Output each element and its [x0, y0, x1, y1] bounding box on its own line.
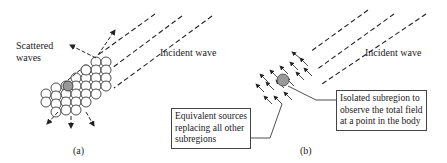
scattered-waves-label-line2: waves	[16, 52, 53, 64]
scattered-waves-label-line1: Scattered	[16, 40, 53, 52]
isolated-box-line3: at a point in the body	[340, 116, 423, 128]
equivalent-sources-box: Equivalent sources replacing all other s…	[171, 108, 251, 149]
equivalent-box-line3: subregions	[175, 134, 247, 146]
equivalent-box-line1: Equivalent sources	[175, 111, 247, 123]
caption-b: (b)	[300, 145, 312, 157]
incident-wave-label-a: Incident wave	[160, 47, 216, 59]
isolated-box-line2: observe the total field	[340, 105, 423, 117]
incident-wave-label-b: Incident wave	[365, 47, 421, 59]
isolated-box-line1: Isolated subregion to	[340, 93, 423, 105]
isolated-subregion-box: Isolated subregion to observe the total …	[336, 90, 427, 131]
isolated-subregion-cell	[277, 74, 289, 86]
scatterer-cells-a	[41, 57, 111, 117]
isolated-leader-line	[288, 86, 338, 100]
caption-a: (a)	[73, 145, 84, 157]
equivalent-box-line2: replacing all other	[175, 123, 247, 135]
scattered-waves-label: Scattered waves	[16, 40, 53, 64]
